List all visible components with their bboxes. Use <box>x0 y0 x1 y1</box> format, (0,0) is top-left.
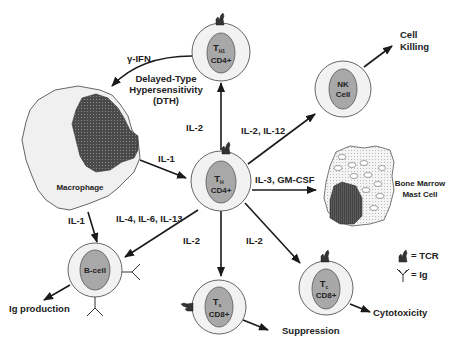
label-th-to-nk: IL-2, IL-12 <box>241 125 285 136</box>
th1-cell: TH1 CD4+ <box>192 13 250 81</box>
label-th-to-th1: IL-2 <box>186 122 203 133</box>
tcr-icon <box>181 303 193 311</box>
th-marker: CD4+ <box>211 186 232 195</box>
arrow-nk-to-killing <box>364 46 392 67</box>
tc-cell: Tc CD8+ <box>299 250 353 315</box>
legend-tcr-label: = TCR <box>411 250 439 261</box>
th1-marker: CD4+ <box>211 56 232 65</box>
ig-production-label: Ig production <box>9 303 70 314</box>
label-macrophage-to-bcell: IL-1 <box>68 215 86 226</box>
arrow-macrophage-to-bcell <box>88 212 97 242</box>
tcr-icon <box>216 13 224 25</box>
cell-killing-line2: Killing <box>400 41 429 52</box>
dth-line1: Delayed-Type <box>135 73 196 84</box>
legend-ig-icon <box>397 269 409 282</box>
mast-cell-nucleus <box>330 182 362 224</box>
tcr-icon <box>222 142 230 154</box>
mast-cell: Bone Marrow Mast Cell <box>324 146 446 226</box>
mast-cell-label-line1: Bone Marrow <box>395 179 446 188</box>
arrow-tc-to-cytotoxicity <box>350 304 370 312</box>
label-th-to-tc: IL-2 <box>246 235 263 246</box>
cytotoxicity-label: Cytotoxicity <box>373 307 428 318</box>
macrophage: Macrophage <box>22 86 140 210</box>
macrophage-label: Macrophage <box>56 183 104 192</box>
label-gamma-ifn: γ-IFN <box>127 53 151 64</box>
legend-ig-label: = Ig <box>411 269 428 280</box>
immune-cytokine-diagram: Macrophage Bone Marrow Mast Cell <box>0 0 450 345</box>
legend-tcr-icon <box>399 250 407 262</box>
label-macrophage-to-th: IL-1 <box>158 153 176 164</box>
ig-receptor-bottom <box>87 297 103 316</box>
ts-marker: CD8+ <box>209 310 230 319</box>
label-th-to-mast: IL-3, GM-CSF <box>255 174 315 185</box>
arrow-th-to-tc <box>245 203 300 263</box>
bcell-label: B-cell <box>84 266 106 275</box>
ig-receptor-right <box>122 264 140 280</box>
tcr-icon <box>321 250 329 262</box>
cell-killing-line1: Cell <box>400 29 417 40</box>
arrow-th-to-nk <box>248 114 315 164</box>
diagram-canvas: Macrophage Bone Marrow Mast Cell <box>0 0 450 345</box>
dth-line3: (DTH) <box>153 95 179 106</box>
dth-line2: Hypersensitivity <box>129 84 203 95</box>
arrow-bcell-to-ig <box>44 285 70 300</box>
label-th-to-bcell: IL-4, IL-6, IL-13 <box>116 213 183 224</box>
th-cell: TH CD4+ <box>191 142 251 211</box>
suppression-label: Suppression <box>282 325 340 336</box>
arrow-ts-to-suppression <box>243 320 268 330</box>
label-th-to-ts: IL-2 <box>183 235 200 246</box>
nk-cell: NK Cell <box>315 61 371 117</box>
legend: = TCR = Ig <box>397 250 439 282</box>
nk-label-line1: NK <box>337 80 349 89</box>
mast-cell-label-line2: Mast Cell <box>402 190 437 199</box>
tc-marker: CD8+ <box>316 291 337 300</box>
ts-cell: Ts CD8+ <box>181 280 246 334</box>
nk-label-line2: Cell <box>336 90 351 99</box>
